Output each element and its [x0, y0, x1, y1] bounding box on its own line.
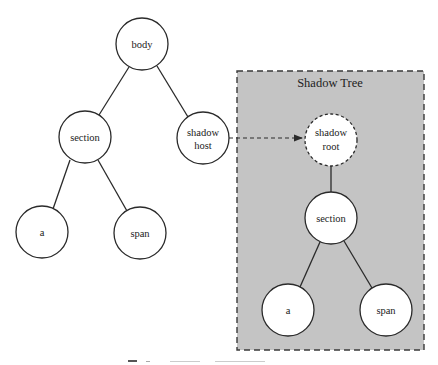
node-a: a	[16, 206, 68, 258]
node-shadow-a: a	[262, 284, 314, 336]
node-label: a	[286, 305, 291, 316]
node-shadow-span: span	[360, 284, 412, 336]
dom-tree-diagram: Shadow Tree body section shadow host a s…	[0, 0, 438, 365]
edge-section-a	[53, 160, 70, 209]
edge-body-section	[99, 67, 129, 115]
node-body: body	[116, 18, 168, 70]
node-shadow-root: shadow root	[305, 114, 357, 166]
caption-fragment	[128, 360, 265, 362]
node-label: a	[40, 227, 45, 238]
node-shadow-section: section	[305, 192, 357, 244]
node-label: body	[132, 39, 154, 50]
node-label: span	[376, 305, 396, 316]
edge-body-shadow-host	[157, 66, 188, 117]
node-label: section	[70, 132, 100, 143]
node-label-line1: shadow	[315, 127, 347, 138]
node-label-line2: root	[323, 141, 340, 152]
node-label: span	[130, 228, 150, 239]
node-span: span	[114, 207, 166, 259]
shadow-tree-title: Shadow Tree	[297, 76, 363, 90]
node-section: section	[59, 111, 111, 163]
node-shadow-host: shadow host	[177, 112, 229, 164]
node-label-line1: shadow	[187, 127, 219, 138]
node-label-line2: host	[194, 140, 212, 151]
node-label: section	[316, 213, 346, 224]
edge-section-span	[98, 160, 127, 211]
